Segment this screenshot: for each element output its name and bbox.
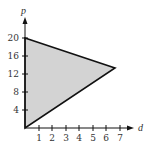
svg-text:12: 12	[8, 69, 19, 79]
svg-text:3: 3	[63, 133, 69, 143]
svg-text:20: 20	[8, 33, 20, 43]
feasible-region	[25, 38, 115, 128]
chart: p d 1 2 3 4 5 6 7 4 8 12 16 20	[0, 0, 147, 145]
svg-text:5: 5	[90, 133, 96, 143]
svg-text:8: 8	[13, 87, 19, 97]
x-axis-label: d	[138, 122, 144, 133]
x-tick-labels: 1 2 3 4 5 6 7	[36, 133, 123, 143]
svg-text:1: 1	[36, 133, 42, 143]
y-axis-label: p	[20, 5, 26, 16]
svg-text:7: 7	[117, 133, 123, 143]
x-axis-arrow-icon	[127, 126, 134, 131]
svg-text:16: 16	[8, 51, 20, 61]
svg-text:4: 4	[76, 133, 82, 143]
y-axis-arrow-icon	[23, 17, 28, 24]
svg-text:6: 6	[103, 133, 109, 143]
svg-text:4: 4	[13, 105, 19, 115]
y-tick-labels: 4 8 12 16 20	[8, 33, 20, 115]
svg-text:2: 2	[49, 133, 55, 143]
